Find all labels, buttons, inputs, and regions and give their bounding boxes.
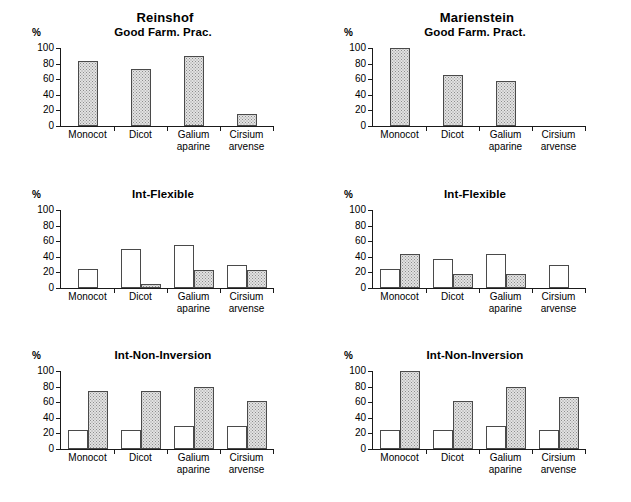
y-axis-tick-label: 100 bbox=[37, 205, 54, 215]
y-axis-tick-label: 0 bbox=[360, 444, 366, 454]
bar-open bbox=[380, 430, 400, 450]
bar-stippled bbox=[194, 270, 214, 288]
bar-open bbox=[433, 259, 453, 288]
bar-open bbox=[539, 430, 559, 449]
y-axis-tick-label: 80 bbox=[43, 221, 54, 231]
y-axis-tick-label: 60 bbox=[355, 397, 366, 407]
bar-group: Dicot bbox=[114, 48, 167, 126]
bar-open bbox=[174, 426, 194, 449]
y-axis-tick-label: 20 bbox=[43, 267, 54, 277]
x-axis-category-label: Cirsium arvense bbox=[530, 452, 588, 475]
x-axis-category-label: Cirsium arvense bbox=[218, 452, 276, 475]
bar-open bbox=[78, 269, 98, 289]
plot-area: 020406080100MonocotDicotGalium aparineCi… bbox=[372, 48, 585, 127]
y-axis-tick-label: 100 bbox=[349, 366, 366, 376]
bar-group: Cirsium arvense bbox=[220, 371, 273, 449]
y-axis-tick-label: 0 bbox=[48, 121, 54, 131]
bar-open bbox=[121, 430, 141, 449]
y-axis-tick-label: 20 bbox=[355, 428, 366, 438]
bar-group: Monocot bbox=[61, 371, 114, 449]
bar-stippled bbox=[237, 114, 257, 126]
bar-group: Galium aparine bbox=[479, 210, 532, 288]
y-axis-tick-label: 0 bbox=[360, 121, 366, 131]
chart-title: Int-Non-Inversion bbox=[28, 349, 298, 361]
chart-panel-marienstein-int-non-inversion: %Int-Non-Inversion020406080100MonocotDic… bbox=[320, 349, 620, 502]
y-axis-tick-label: 80 bbox=[43, 382, 54, 392]
x-axis-category-label: Galium aparine bbox=[165, 291, 223, 314]
y-axis-tick bbox=[368, 126, 373, 127]
bar-group: Monocot bbox=[61, 210, 114, 288]
y-axis-tick bbox=[56, 449, 61, 450]
x-axis-category-label: Monocot bbox=[59, 291, 117, 303]
bar-stippled bbox=[390, 48, 410, 126]
bar-open bbox=[549, 265, 569, 288]
bar-stippled bbox=[453, 401, 473, 449]
bar-group: Monocot bbox=[373, 371, 426, 449]
y-axis-tick-label: 100 bbox=[349, 43, 366, 53]
bar-group: Cirsium arvense bbox=[220, 210, 273, 288]
bar-stippled bbox=[506, 387, 526, 449]
plot-area: 020406080100MonocotDicotGalium aparineCi… bbox=[372, 371, 585, 450]
y-axis-tick-label: 0 bbox=[360, 283, 366, 293]
bar-open bbox=[380, 269, 400, 289]
bar-stippled bbox=[141, 284, 161, 288]
bar-stippled bbox=[247, 401, 267, 449]
y-axis-tick-label: 60 bbox=[43, 74, 54, 84]
bar-group: Dicot bbox=[114, 210, 167, 288]
plot-area: 020406080100MonocotDicotGalium aparineCi… bbox=[60, 371, 273, 450]
chart-panel-reinshof-int-flexible: %Int-Flexible020406080100MonocotDicotGal… bbox=[8, 188, 308, 348]
chart-panel-marienstein-good-farm-pract: %Good Farm. Pract.020406080100MonocotDic… bbox=[320, 26, 620, 186]
y-axis-tick-label: 20 bbox=[355, 267, 366, 277]
x-axis-category-label: Cirsium arvense bbox=[530, 129, 588, 152]
x-axis-category-label: Monocot bbox=[371, 291, 429, 303]
chart-title: Good Farm. Prac. bbox=[28, 26, 298, 38]
x-axis-category-label: Dicot bbox=[424, 291, 482, 303]
bar-stippled bbox=[184, 56, 204, 126]
y-axis-tick-label: 40 bbox=[43, 90, 54, 100]
bar-group: Monocot bbox=[373, 48, 426, 126]
x-axis-category-label: Cirsium arvense bbox=[218, 129, 276, 152]
bar-stippled bbox=[131, 69, 151, 126]
y-axis-tick-label: 60 bbox=[43, 236, 54, 246]
bar-open bbox=[227, 426, 247, 449]
bar-group: Galium aparine bbox=[479, 48, 532, 126]
x-axis-category-label: Dicot bbox=[112, 129, 170, 141]
y-axis-tick-label: 80 bbox=[355, 382, 366, 392]
bar-group: Cirsium arvense bbox=[532, 210, 585, 288]
y-axis-tick-label: 40 bbox=[43, 252, 54, 262]
x-axis-category-label: Dicot bbox=[112, 291, 170, 303]
bar-stippled bbox=[78, 61, 98, 126]
y-axis-tick-label: 80 bbox=[355, 59, 366, 69]
bar-stippled bbox=[400, 371, 420, 449]
bar-open bbox=[174, 245, 194, 288]
y-axis-tick-label: 100 bbox=[37, 366, 54, 376]
site-title-marienstein: Marienstein bbox=[352, 10, 602, 25]
y-axis-tick-label: 40 bbox=[355, 413, 366, 423]
y-axis-tick-label: 20 bbox=[43, 428, 54, 438]
bar-group: Galium aparine bbox=[479, 371, 532, 449]
bar-stippled bbox=[194, 387, 214, 449]
y-axis-tick-label: 20 bbox=[355, 105, 366, 115]
chart-panel-reinshof-int-non-inversion: %Int-Non-Inversion020406080100MonocotDic… bbox=[8, 349, 308, 502]
bar-group: Monocot bbox=[61, 48, 114, 126]
x-axis-category-label: Dicot bbox=[424, 129, 482, 141]
bar-open bbox=[227, 265, 247, 288]
y-axis-tick-label: 100 bbox=[349, 205, 366, 215]
x-axis-category-label: Galium aparine bbox=[477, 452, 535, 475]
bar-stippled bbox=[88, 391, 108, 450]
bar-stippled bbox=[453, 274, 473, 288]
x-axis-category-label: Monocot bbox=[371, 129, 429, 141]
bar-group: Galium aparine bbox=[167, 371, 220, 449]
y-axis-tick bbox=[368, 449, 373, 450]
bar-group: Cirsium arvense bbox=[220, 48, 273, 126]
figure-root: Reinshof Marienstein %Good Farm. Prac.02… bbox=[0, 0, 631, 502]
bar-group: Dicot bbox=[426, 48, 479, 126]
y-axis-tick-label: 0 bbox=[48, 444, 54, 454]
bar-group: Galium aparine bbox=[167, 210, 220, 288]
chart-panel-reinshof-good-farm-prac: %Good Farm. Prac.020406080100MonocotDico… bbox=[8, 26, 308, 186]
x-axis-category-label: Dicot bbox=[424, 452, 482, 464]
bar-stippled bbox=[559, 397, 579, 449]
bar-group: Galium aparine bbox=[167, 48, 220, 126]
y-axis-tick-label: 0 bbox=[48, 283, 54, 293]
x-axis-category-label: Cirsium arvense bbox=[530, 291, 588, 314]
